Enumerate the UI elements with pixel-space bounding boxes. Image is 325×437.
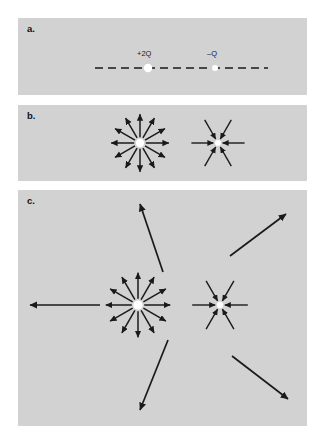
field-line-upper-right <box>230 214 286 256</box>
field-vector <box>222 309 234 329</box>
field-line-lower-left <box>140 340 168 410</box>
field-vector <box>206 309 218 329</box>
panel-c-graphics <box>0 0 325 437</box>
positive-charge-dot <box>133 300 142 309</box>
negative-charge-dot <box>217 302 223 308</box>
figure-electric-field-lines: a. +2Q –Q b. c. <box>0 0 325 437</box>
field-vector <box>206 281 218 301</box>
long-field-lines <box>30 204 288 410</box>
field-line-upper-left <box>140 204 163 272</box>
field-vector <box>222 281 234 301</box>
field-line-lower-right <box>232 356 288 399</box>
